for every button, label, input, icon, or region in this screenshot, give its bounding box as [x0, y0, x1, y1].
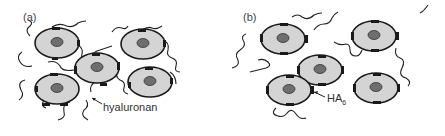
cell — [354, 73, 398, 103]
diagram-canvas — [0, 0, 445, 136]
cell — [75, 53, 119, 83]
panel-b-label: (b) — [243, 11, 256, 23]
ha6-label-main: HA — [327, 92, 342, 104]
cell — [352, 21, 396, 51]
cell — [121, 29, 165, 59]
panel-a-label: (a) — [23, 11, 36, 23]
cell — [35, 28, 79, 58]
ha6-label-sub: 6 — [342, 99, 346, 106]
cell — [128, 67, 172, 97]
cell — [35, 74, 79, 104]
ha6-label: HA6 — [327, 92, 346, 106]
cell — [261, 24, 305, 54]
hyaluronan-label: hyaluronan — [103, 101, 157, 113]
cell — [267, 75, 311, 105]
